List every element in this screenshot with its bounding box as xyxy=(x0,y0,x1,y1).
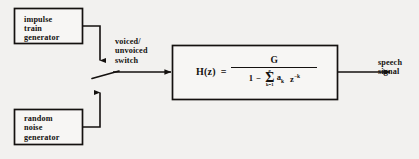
formula-den-one: 1 xyxy=(249,74,254,83)
formula-denominator: 1 − p Σ k=1 ak z−k xyxy=(249,68,300,88)
formula-numerator: G xyxy=(271,56,279,67)
z-exponent: −k xyxy=(294,73,300,79)
formula-den-minus: − xyxy=(256,74,261,83)
formula-coefficient: ak xyxy=(277,73,284,84)
transfer-function-formula: H(z) = G 1 − p Σ k=1 ak z−k xyxy=(196,56,317,88)
speech-signal-label: speech signal xyxy=(378,58,402,77)
connector-impulse-to-switch xyxy=(83,26,101,61)
formula-z-term: z−k xyxy=(290,74,300,83)
impulse-train-generator-label: impulse train generator xyxy=(24,15,59,43)
formula-summation: p Σ k=1 xyxy=(265,69,274,88)
connector-noise-to-switch xyxy=(83,93,101,128)
formula-lhs: H(z) xyxy=(196,66,216,77)
diagram-canvas: impulse train generator random noise gen… xyxy=(0,0,419,159)
random-noise-generator-label: random noise generator xyxy=(24,114,59,142)
summation-lower-limit: k=1 xyxy=(266,83,273,88)
formula-fraction: G 1 − p Σ k=1 ak z−k xyxy=(231,56,317,88)
coefficient-subscript: k xyxy=(281,77,284,83)
voiced-unvoiced-switch-label: voiced/ unvoiced switch xyxy=(115,37,148,65)
formula-equals: = xyxy=(221,66,227,77)
